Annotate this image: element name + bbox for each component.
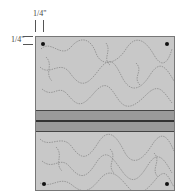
seam-band xyxy=(36,110,174,132)
corner-marker-bottom-left xyxy=(42,182,46,186)
left-allowance-tick-bottom xyxy=(23,44,33,45)
top-allowance-label: 1/4" xyxy=(33,10,47,18)
seam-stitch-line xyxy=(36,120,174,122)
corner-marker-bottom-right xyxy=(165,182,169,186)
top-allowance-tick-left xyxy=(35,20,36,32)
left-allowance-tick-top xyxy=(23,36,33,37)
top-allowance-tick-right xyxy=(43,20,44,32)
corner-marker-top-left xyxy=(41,42,45,46)
corner-marker-top-right xyxy=(165,42,169,46)
left-allowance-label: 1/4" xyxy=(11,36,25,44)
quilt-panel xyxy=(35,36,175,191)
